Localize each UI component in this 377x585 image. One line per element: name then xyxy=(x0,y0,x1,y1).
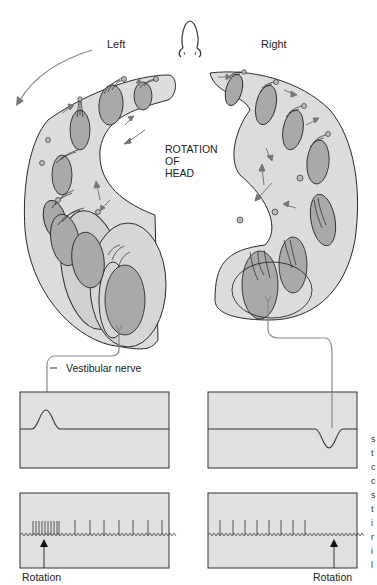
vestibular-nerve-label: Vestibular nerve xyxy=(66,363,141,374)
label-left: Left xyxy=(107,39,125,50)
rotation-label-line-3: HEAD xyxy=(165,167,218,179)
hair-cell xyxy=(242,251,278,319)
right-spike-trace xyxy=(208,493,357,568)
nose-icon xyxy=(179,21,200,57)
label-right: Right xyxy=(261,39,287,50)
hair-cell xyxy=(105,265,145,335)
hair-cell xyxy=(134,82,152,110)
right-potential-trace xyxy=(208,392,357,468)
left-semicircular-canal xyxy=(24,75,175,349)
rotation-of-head-label: ROTATION OF HEAD xyxy=(165,143,218,179)
hair-cell xyxy=(70,110,90,150)
right-semicircular-canal xyxy=(210,70,358,320)
rotation-label-right: Rotation xyxy=(313,572,352,583)
rotation-label-left: Rotation xyxy=(22,572,61,583)
cropped-edge-text: s t c c s t i r i l xyxy=(371,432,377,572)
hair-cell xyxy=(279,237,307,293)
hair-cell xyxy=(52,155,72,195)
rotation-label-line-2: OF xyxy=(165,155,218,167)
left-potential-trace xyxy=(20,392,169,468)
rotation-label-line-1: ROTATION xyxy=(165,143,218,155)
diagram-canvas xyxy=(0,0,377,585)
